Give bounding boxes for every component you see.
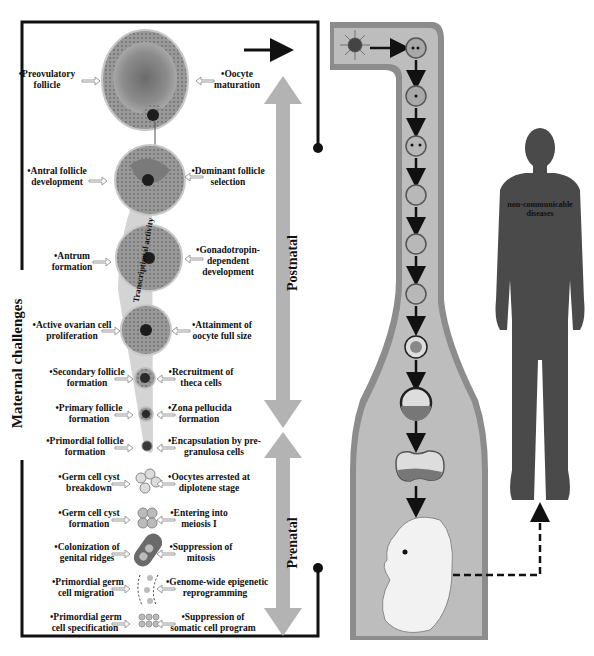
stage-left-line2: formation [58, 519, 120, 530]
stage-right-line1: •Gonadotropin- [196, 245, 260, 256]
stage-left-line2: breakdown [58, 483, 120, 494]
cyst-breakdown-cells [136, 469, 161, 493]
stage-left-line2: formation [48, 378, 126, 389]
ncd-line1: non-communicable [500, 200, 580, 209]
stage-left-11: •Primordial germ cell specification [50, 612, 120, 634]
stage-right-line2: diplotene stage [168, 483, 250, 494]
stage-left-line1: •Primordial follicle [45, 436, 125, 447]
pgc-specification [139, 614, 159, 627]
stage-right-line2: maturation [214, 80, 260, 91]
stage-left-2: •Antrum formation [50, 251, 94, 273]
stage-right-line2: dependent [196, 256, 260, 267]
stage-right-line1: •Genome-wide epigenetic [166, 577, 264, 588]
ncd-line2: diseases [500, 209, 580, 218]
stage-left-line2: formation [55, 414, 123, 425]
stage-right-line2: meiosis I [168, 519, 230, 530]
prenatal-label: Prenatal [285, 508, 301, 578]
stage-left-5: •Primary follicle formation [55, 403, 123, 425]
stage-right-0: •Oocyte maturation [214, 69, 260, 91]
stage-right-line2: selection [190, 177, 266, 188]
stage-right-line1: •Zona pellucida [168, 403, 230, 414]
human-silhouette [496, 128, 585, 500]
stage-left-4: •Secondary follicle formation [48, 367, 126, 389]
stage-right-6: •Encapsulation by pre- granulosa cells [168, 436, 260, 458]
stage-right-11: •Suppression of somatic cell program [170, 612, 256, 634]
stage-right-line2: somatic cell program [170, 623, 256, 634]
stage-left-9: •Colonization of genital ridges [54, 542, 120, 564]
stage-left-line1: •Primordial germ [50, 612, 120, 623]
stage-right-line2: reprogramming [166, 588, 264, 599]
stage-left-line1: •Colonization of [54, 542, 120, 553]
stage-left-1: •Antral follicle development [22, 166, 92, 188]
stage-right-line2: theca cells [168, 378, 234, 389]
stage-right-2: •Gonadotropin- dependent development [196, 245, 260, 278]
stage-right-line2: granulosa cells [168, 447, 260, 458]
stage-left-line2: follicle [10, 80, 84, 91]
stage-right-8: •Entering into meiosis I [168, 508, 230, 530]
stage-left-line1: •Antrum [50, 251, 94, 262]
stage-right-3: •Attainment of oocyte full size [190, 320, 254, 342]
postnatal-label: Postnatal [285, 228, 301, 298]
ncd-label: non-communicable diseases [500, 200, 580, 218]
stage-right-line1: •Attainment of [190, 320, 254, 331]
stage-left-line1: •Active ovarian cell [32, 320, 112, 331]
stage-right-10: •Genome-wide epigenetic reprogramming [166, 577, 264, 599]
stage-right-line1: •Entering into [168, 508, 230, 519]
stage-left-line1: •Germ cell cyst [58, 508, 120, 519]
stage-left-line1: •Antral follicle [22, 166, 92, 177]
stage-right-4: •Recruitment of theca cells [168, 367, 234, 389]
stage-right-line1: •Suppression of [168, 542, 234, 553]
stage-right-line1: •Suppression of [170, 612, 256, 623]
stage-left-8: •Germ cell cyst formation [58, 508, 120, 530]
stage-right-line1: •Oocyte [214, 69, 260, 80]
stage-right-line2: formation [168, 414, 230, 425]
stage-left-0: •Preovulatory follicle [10, 69, 84, 91]
stage-right-7: •Oocytes arrested at diplotene stage [168, 472, 250, 494]
stage-left-line2: formation [45, 447, 125, 458]
stage-left-line2: proliferation [32, 331, 112, 342]
stage-right-line1: •Encapsulation by pre- [168, 436, 260, 447]
stage-left-line1: •Primordial germ [52, 577, 120, 588]
stage-left-3: •Active ovarian cell proliferation [32, 320, 112, 342]
maternal-challenges-label: Maternal challenges [9, 289, 26, 439]
stage-left-6: •Primordial follicle formation [45, 436, 125, 458]
stage-right-line3: development [196, 267, 260, 278]
stage-left-line2: cell specification [50, 623, 120, 634]
stage-right-1: •Dominant follicle selection [190, 166, 266, 188]
stage-left-7: •Germ cell cyst breakdown [58, 472, 120, 494]
stage-right-line1: •Dominant follicle [190, 166, 266, 177]
germ-cell-cyst [138, 508, 157, 528]
stage-right-line2: oocyte full size [190, 331, 254, 342]
stage-right-line1: •Recruitment of [168, 367, 234, 378]
stage-right-9: •Suppression of mitosis [168, 542, 234, 564]
stage-left-line1: •Primary follicle [55, 403, 123, 414]
stage-left-line2: formation [50, 262, 94, 273]
stage-left-line2: development [22, 177, 92, 188]
stage-left-line2: genital ridges [54, 553, 120, 564]
stage-left-line1: •Secondary follicle [48, 367, 126, 378]
stage-right-5: •Zona pellucida formation [168, 403, 230, 425]
genital-ridge [130, 530, 165, 570]
stage-right-line1: •Oocytes arrested at [168, 472, 250, 483]
stage-left-line1: •Germ cell cyst [58, 472, 120, 483]
stage-left-line1: •Preovulatory [10, 69, 84, 80]
stage-left-line2: cell migration [52, 588, 120, 599]
stage-left-10: •Primordial germ cell migration [52, 577, 120, 599]
stage-right-line2: mitosis [168, 553, 234, 564]
